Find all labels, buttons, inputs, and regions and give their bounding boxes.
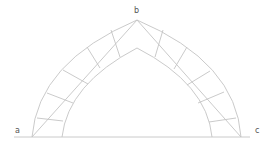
joint-line <box>174 47 187 69</box>
inner-arch-right <box>137 48 212 137</box>
arch-drawing <box>0 0 274 146</box>
joints-right <box>155 30 236 122</box>
label-a: a <box>15 127 20 135</box>
label-b: b <box>134 7 139 15</box>
joint-line <box>209 118 236 122</box>
joint-line <box>187 71 210 85</box>
joint-line <box>37 118 63 121</box>
joints-left <box>37 30 120 121</box>
joint-line <box>155 30 163 57</box>
joint-line <box>87 47 100 68</box>
arch-diagram: a b c <box>0 0 274 146</box>
label-c: c <box>255 127 259 135</box>
joint-line <box>63 70 88 84</box>
joint-line <box>47 93 73 103</box>
joint-line <box>111 30 120 57</box>
